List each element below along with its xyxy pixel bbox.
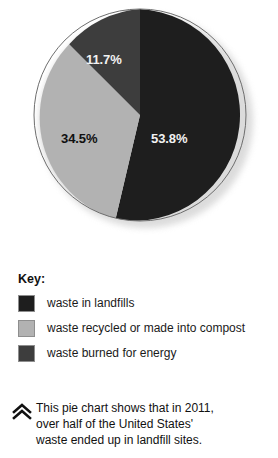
- legend-title: Key:: [18, 272, 268, 286]
- caption-line-1: This pie chart shows that in 2011,: [36, 401, 214, 415]
- legend-label-waste-recycled: waste recycled or made into compost: [47, 322, 245, 335]
- pie-chart-graphic: 53.8% 34.5% 11.7%: [33, 8, 247, 256]
- legend-swatch-waste-recycled: [18, 320, 35, 337]
- double-chevron-up-icon: [10, 402, 36, 422]
- pie-label-waste-burned: 11.7%: [86, 52, 122, 67]
- pie-chart-figure: 53.8% 34.5% 11.7%: [0, 0, 278, 262]
- legend-item-waste-in-landfills: waste in landfills: [18, 295, 268, 312]
- chart-legend: Key: waste in landfills waste recycled o…: [18, 272, 268, 370]
- legend-swatch-waste-in-landfills: [18, 295, 35, 312]
- pie-label-waste-recycled: 34.5%: [61, 131, 97, 146]
- legend-item-waste-recycled: waste recycled or made into compost: [18, 320, 268, 337]
- legend-item-waste-burned: waste burned for energy: [18, 345, 268, 362]
- legend-label-waste-burned: waste burned for energy: [47, 347, 176, 360]
- legend-swatch-waste-burned: [18, 345, 35, 362]
- chart-caption: This pie chart shows that in 2011, over …: [10, 400, 272, 449]
- legend-label-waste-in-landfills: waste in landfills: [47, 297, 134, 310]
- caption-text-block: This pie chart shows that in 2011, over …: [36, 400, 214, 449]
- caption-line-2: over half of the United States': [36, 417, 193, 431]
- pie-label-waste-in-landfills: 53.8%: [151, 131, 187, 146]
- caption-line-3: waste ended up in landfill sites.: [36, 433, 202, 447]
